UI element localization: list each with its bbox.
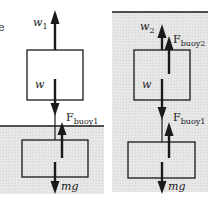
force-arrow-w1 xyxy=(51,10,60,50)
edge-glyph: e xyxy=(0,21,5,34)
right-panel: w2 Fbuoy2 w Fbuoy1 xyxy=(112,12,208,194)
force-label-w1: w1 xyxy=(33,16,48,31)
force-label-w: w xyxy=(35,78,45,91)
force-label-mg: mg xyxy=(61,180,78,193)
force-label-mg: mg xyxy=(168,180,185,193)
free-body-diagram: e w1 w Fbuoy1 xyxy=(0,0,208,199)
force-label-w: w xyxy=(142,78,152,91)
arrowhead-up-icon xyxy=(51,10,60,24)
left-panel: e w1 w Fbuoy1 xyxy=(0,10,104,194)
force-label-fbuoy1: Fbuoy1 xyxy=(66,111,98,126)
